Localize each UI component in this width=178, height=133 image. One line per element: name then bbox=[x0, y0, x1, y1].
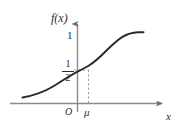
y-tick-label-one-half: 1 2 bbox=[62, 59, 74, 83]
cdf-curve bbox=[23, 32, 144, 97]
x-tick-label-mu: μ bbox=[84, 107, 90, 118]
x-axis-label: x bbox=[166, 111, 171, 122]
cdf-figure: f(x) 1 1 2 O μ x bbox=[0, 0, 178, 133]
fraction-numerator: 1 bbox=[62, 59, 74, 70]
origin-label: O bbox=[65, 107, 72, 117]
fraction-denominator: 2 bbox=[62, 73, 74, 84]
y-axis-label: f(x) bbox=[51, 12, 68, 24]
y-tick-label-one: 1 bbox=[67, 30, 73, 41]
